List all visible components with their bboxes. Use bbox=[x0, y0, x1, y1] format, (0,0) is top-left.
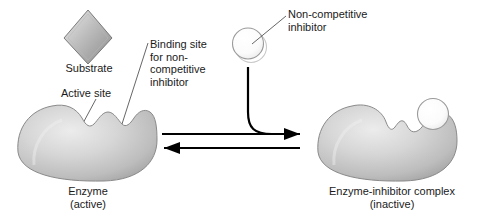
binding-site-label: Binding site for non- competitive inhibi… bbox=[150, 38, 226, 88]
non-competitive-inhibitor-label: Non-competitive inhibitor bbox=[288, 8, 398, 33]
substrate-shape bbox=[64, 10, 112, 64]
inhibitor-leader-line bbox=[252, 16, 286, 44]
enzyme-active-shape bbox=[18, 105, 157, 181]
bound-inhibitor-shape bbox=[418, 99, 449, 130]
enzyme-inhibitor-complex-caption: Enzyme-inhibitor complex (inactive) bbox=[312, 185, 472, 210]
enzyme-active-caption: Enzyme (active) bbox=[28, 185, 148, 210]
free-inhibitor-shape bbox=[233, 28, 267, 63]
substrate-label: Substrate bbox=[52, 62, 126, 75]
inhibitor-binding-path bbox=[248, 67, 272, 134]
enzyme-inhibition-diagram: Substrate Active site Binding site for n… bbox=[0, 0, 482, 222]
enzyme-inhibitor-complex-shape bbox=[318, 99, 457, 182]
active-site-label: Active site bbox=[46, 87, 126, 100]
